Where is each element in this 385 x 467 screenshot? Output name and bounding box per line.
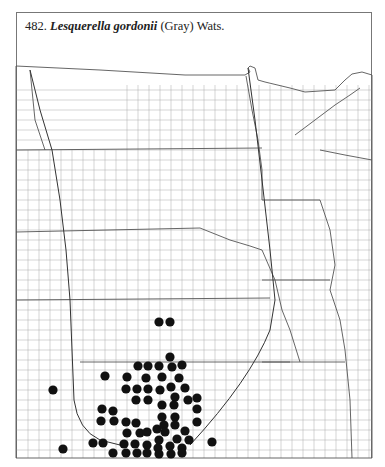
occurrence-dot [48, 385, 57, 394]
occurrence-dot [192, 404, 201, 413]
occurrence-dot [132, 448, 141, 457]
occurrence-dot [160, 427, 169, 436]
occurrence-dot [192, 393, 201, 402]
occurrence-dot [183, 395, 192, 404]
county-grid [16, 85, 372, 458]
occurrence-dot [170, 412, 179, 421]
occurrence-dot [142, 448, 151, 457]
occurrence-dot [157, 412, 166, 421]
occurrence-dot [165, 317, 174, 326]
occurrence-dot [131, 418, 140, 427]
occurrence-dot [154, 449, 163, 458]
occurrence-dot [165, 352, 174, 361]
occurrence-dot [142, 440, 151, 449]
occurrence-dot [184, 435, 193, 444]
occurrence-dot [88, 438, 97, 447]
occurrence-dot [122, 428, 131, 437]
occurrence-dot [154, 435, 163, 444]
occurrence-dot [121, 384, 130, 393]
occurrence-dot [119, 439, 128, 448]
occurrence-dot [177, 360, 186, 369]
occurrence-dot [180, 383, 189, 392]
occurrence-dot [166, 382, 175, 391]
occurrence-dot [100, 371, 109, 380]
occurrence-dot [154, 317, 163, 326]
occurrence-dot [170, 420, 179, 429]
occurrence-dot [169, 400, 178, 409]
occurrence-dot [121, 448, 130, 457]
occurrence-dot [177, 448, 186, 457]
occurrence-dot [108, 448, 117, 457]
occurrence-dot [170, 392, 179, 401]
occurrence-dot [192, 417, 201, 426]
occurrence-dot [180, 426, 189, 435]
occurrence-dot [143, 395, 152, 404]
occurrence-dot [132, 384, 141, 393]
occurrence-dot [97, 404, 106, 413]
occurrence-dot [172, 434, 181, 443]
occurrence-dot [109, 416, 118, 425]
distribution-map [0, 0, 385, 467]
occurrence-dot [131, 395, 140, 404]
occurrence-dot [143, 384, 152, 393]
occurrence-dot [154, 361, 163, 370]
occurrence-dot [157, 372, 166, 381]
occurrence-dot [166, 449, 175, 458]
occurrence-dot [130, 439, 139, 448]
occurrence-dot [165, 441, 174, 450]
occurrence-dot [155, 385, 164, 394]
occurrence-dot [174, 373, 183, 382]
occurrence-dot [122, 372, 131, 381]
occurrence-dot [133, 361, 142, 370]
occurrence-dot [143, 361, 152, 370]
occurrence-dot [141, 373, 150, 382]
occurrence-dot [142, 427, 151, 436]
occurrence-dot [167, 362, 176, 371]
occurrence-dot [207, 437, 216, 446]
occurrence-dot [58, 444, 67, 453]
occurrence-dot [96, 416, 105, 425]
occurrence-dot [157, 400, 166, 409]
occurrence-dot [121, 417, 130, 426]
occurrence-dot [108, 406, 117, 415]
occurrence-dot [98, 438, 107, 447]
